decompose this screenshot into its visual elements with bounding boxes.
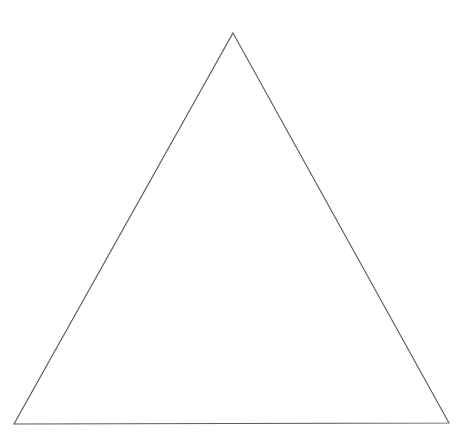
triangle-shape: [14, 33, 449, 424]
triangle-figure: [0, 0, 475, 440]
drawing-canvas: [0, 0, 475, 440]
